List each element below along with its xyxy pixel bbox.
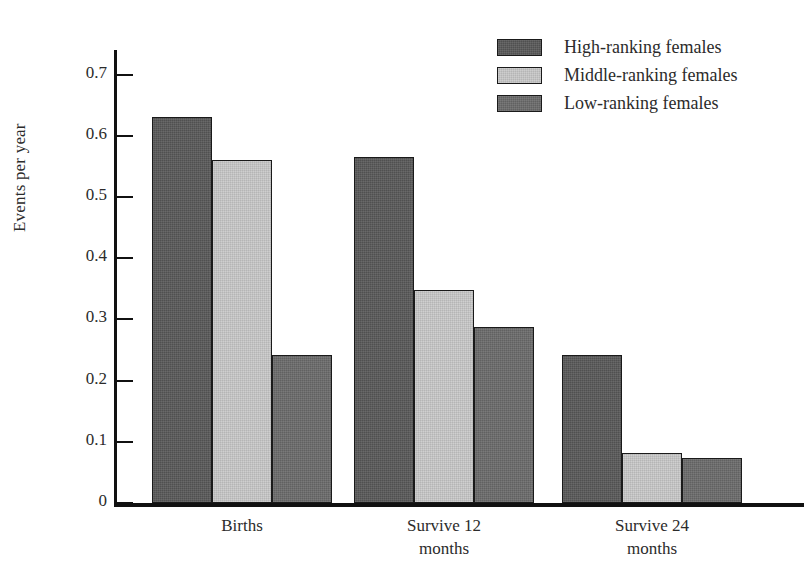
legend-swatch <box>497 39 542 56</box>
y-axis-tick: 0.2 <box>117 380 133 382</box>
legend-item: Middle-ranking females <box>497 61 737 89</box>
x-axis-group-label: Survive 24months <box>532 515 772 561</box>
x-axis-label-line: months <box>324 538 564 561</box>
bar <box>152 117 212 503</box>
plot-area: 00.10.20.30.40.50.60.7 BirthsSurvive 12m… <box>114 50 804 507</box>
y-axis-tick: 0.4 <box>117 257 133 259</box>
x-axis-label-line: Survive 24 <box>532 515 772 538</box>
y-axis-tick-label: 0 <box>99 491 108 511</box>
x-axis-label-line: Survive 12 <box>324 515 564 538</box>
bar <box>682 458 742 503</box>
y-axis-tick-label: 0.2 <box>86 369 107 389</box>
y-axis-tick: 0.5 <box>117 196 133 198</box>
y-axis-line <box>114 50 117 507</box>
bar-group: Births <box>152 50 332 503</box>
x-axis-label-line: months <box>532 538 772 561</box>
y-axis-tick-label: 0.1 <box>86 430 107 450</box>
bar <box>474 327 534 503</box>
y-axis-tick-label: 0.3 <box>86 307 107 327</box>
legend: High-ranking femalesMiddle-ranking femal… <box>497 33 737 117</box>
legend-swatch <box>497 95 542 112</box>
bar <box>414 290 474 503</box>
y-axis-tick: 0 <box>117 502 133 504</box>
chart-figure: Events per year 00.10.20.30.40.50.60.7 B… <box>0 0 812 577</box>
legend-swatch <box>497 67 542 84</box>
y-axis-tick-label: 0.5 <box>86 185 107 205</box>
y-axis-tick: 0.1 <box>117 441 133 443</box>
legend-label: Low-ranking females <box>564 93 718 114</box>
legend-item: Low-ranking females <box>497 89 737 117</box>
y-axis-tick-label: 0.6 <box>86 124 107 144</box>
bar <box>212 160 272 503</box>
legend-label: High-ranking females <box>564 37 721 58</box>
y-axis-tick: 0.7 <box>117 74 133 76</box>
bar-group: Survive 24months <box>562 50 742 503</box>
y-axis-tick-label: 0.4 <box>86 246 107 266</box>
y-axis-tick: 0.3 <box>117 318 133 320</box>
bar <box>622 453 682 503</box>
x-axis-line <box>114 503 804 507</box>
legend-item: High-ranking females <box>497 33 737 61</box>
bar <box>562 355 622 503</box>
bar <box>354 157 414 503</box>
y-axis-tick-label: 0.7 <box>86 63 107 83</box>
y-axis-tick: 0.6 <box>117 135 133 137</box>
x-axis-group-label: Survive 12months <box>324 515 564 561</box>
bar <box>272 355 332 503</box>
bar-group: Survive 12months <box>354 50 534 503</box>
legend-label: Middle-ranking females <box>564 65 737 86</box>
y-axis-title: Events per year <box>10 32 36 232</box>
